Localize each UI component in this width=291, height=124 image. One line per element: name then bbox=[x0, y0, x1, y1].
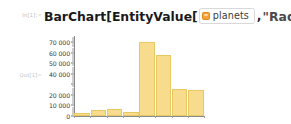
input-expression[interactable]: BarChart[EntityValue[planets,"Radius"]] bbox=[44, 6, 291, 27]
y-tick-label: 50 000 bbox=[36, 60, 70, 67]
x-tick-minor bbox=[90, 116, 91, 118]
bar[interactable] bbox=[139, 42, 155, 116]
bar[interactable] bbox=[107, 109, 123, 116]
bar-chart[interactable]: 010 00020 00040 00050 00060 00070 000 bbox=[36, 34, 216, 122]
x-tick-minor bbox=[204, 116, 205, 118]
y-tick-label: 10 000 bbox=[36, 102, 70, 109]
bar[interactable] bbox=[172, 89, 188, 116]
x-tick-minor bbox=[155, 116, 156, 118]
bar[interactable] bbox=[123, 112, 139, 116]
expression-comma: , bbox=[256, 8, 263, 23]
entity-interpretation-box[interactable]: planets bbox=[199, 8, 255, 24]
expression-property: "Radius" bbox=[263, 7, 291, 27]
x-tick-minor bbox=[74, 116, 75, 118]
plot-area bbox=[74, 38, 204, 116]
bar[interactable] bbox=[156, 55, 172, 116]
output-cell[interactable]: Out[1]= 010 00020 00040 00050 00060 0007… bbox=[0, 34, 291, 124]
y-tick-label: 40 000 bbox=[36, 70, 70, 77]
x-tick-minor bbox=[188, 116, 189, 118]
input-cell-label: In[1]:= bbox=[16, 12, 42, 18]
entity-class-icon bbox=[202, 12, 210, 20]
bar[interactable] bbox=[91, 110, 107, 116]
x-tick-minor bbox=[107, 116, 108, 118]
expression-prefix: BarChart[EntityValue[ bbox=[44, 7, 198, 27]
y-tick-label: 60 000 bbox=[36, 49, 70, 56]
x-tick-minor bbox=[139, 116, 140, 118]
x-tick-minor bbox=[123, 116, 124, 118]
y-tick-label: 70 000 bbox=[36, 39, 70, 46]
input-cell[interactable]: In[1]:= BarChart[EntityValue[planets,"Ra… bbox=[0, 6, 291, 30]
x-tick-minor bbox=[172, 116, 173, 118]
y-tick-label: 20 000 bbox=[36, 91, 70, 98]
bar[interactable] bbox=[74, 113, 90, 116]
entity-label: planets bbox=[213, 10, 249, 22]
y-tick-label: 0 bbox=[36, 113, 70, 120]
bar[interactable] bbox=[188, 90, 204, 116]
